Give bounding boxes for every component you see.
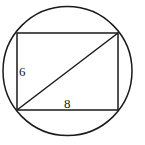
height-label: 6	[19, 64, 26, 79]
width-label: 8	[64, 96, 71, 111]
inscribed-rectangle-diagram: 6 8	[0, 0, 145, 145]
